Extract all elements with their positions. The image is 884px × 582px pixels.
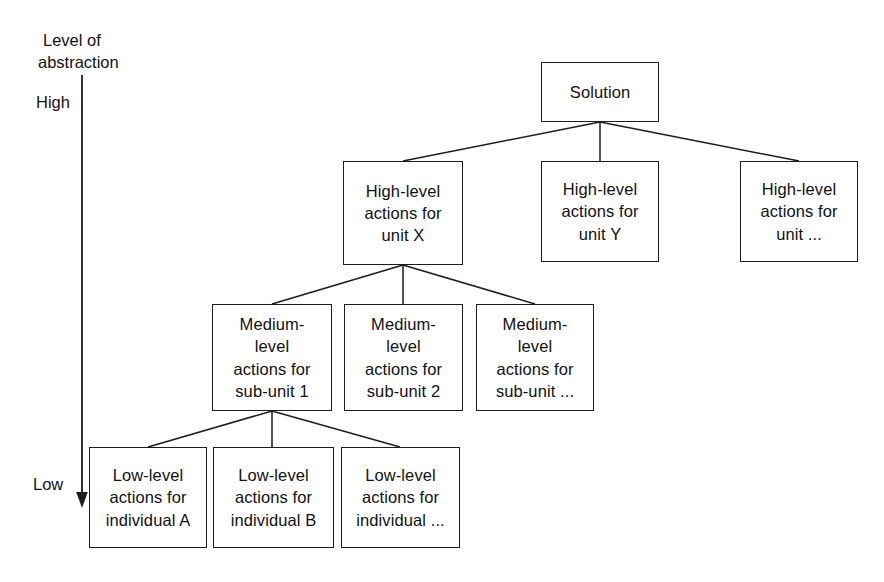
edge-high-x-to-med-e: [403, 265, 535, 304]
node-high-e-line-3: unit ...: [776, 223, 822, 245]
diagram-canvas: Level of abstraction High Low Solution H…: [0, 0, 884, 582]
node-med-e-line-4: sub-unit ...: [496, 380, 574, 402]
node-medium-level-sub-unit-2[interactable]: Medium- level actions for sub-unit 2: [344, 304, 463, 411]
node-high-e-line-2: actions for: [760, 200, 837, 222]
node-low-b-line-2: actions for: [235, 486, 312, 508]
node-solution-line-1: Solution: [570, 81, 630, 103]
node-solution[interactable]: Solution: [541, 62, 659, 122]
node-med-2-line-2: level: [386, 335, 420, 357]
node-medium-level-sub-unit-ellipsis[interactable]: Medium- level actions for sub-unit ...: [476, 304, 594, 411]
node-high-e-line-1: High-level: [762, 178, 836, 200]
edge-solution-to-high-x: [403, 122, 600, 161]
node-high-x-line-3: unit X: [382, 224, 425, 246]
axis-title: Level of abstraction: [38, 30, 119, 74]
node-med-1-line-1: Medium-: [240, 313, 305, 335]
node-low-level-individual-b[interactable]: Low-level actions for individual B: [213, 447, 334, 548]
node-med-1-line-3: actions for: [233, 358, 310, 380]
node-high-level-unit-ellipsis[interactable]: High-level actions for unit ...: [740, 161, 858, 262]
node-low-a-line-1: Low-level: [113, 464, 184, 486]
node-low-b-line-1: Low-level: [238, 464, 309, 486]
node-medium-level-sub-unit-1[interactable]: Medium- level actions for sub-unit 1: [212, 304, 332, 411]
edge-med-1-to-low-a: [148, 411, 272, 447]
node-med-1-line-2: level: [255, 335, 289, 357]
node-low-level-individual-a[interactable]: Low-level actions for individual A: [89, 447, 207, 548]
node-med-1-line-4: sub-unit 1: [235, 380, 308, 402]
node-med-e-line-2: level: [518, 335, 552, 357]
node-med-2-line-4: sub-unit 2: [367, 380, 440, 402]
abstraction-axis-arrow: [76, 75, 88, 508]
node-high-level-unit-x[interactable]: High-level actions for unit X: [343, 161, 463, 265]
axis-title-line-1: Level of: [38, 30, 119, 52]
node-low-a-line-2: actions for: [109, 486, 186, 508]
node-med-e-line-1: Medium-: [503, 313, 568, 335]
node-low-level-individual-ellipsis[interactable]: Low-level actions for individual ...: [341, 447, 460, 548]
node-high-level-unit-y[interactable]: High-level actions for unit Y: [541, 161, 659, 262]
node-high-y-line-1: High-level: [563, 178, 637, 200]
node-med-e-line-3: actions for: [496, 358, 573, 380]
axis-title-line-2: abstraction: [38, 52, 119, 74]
node-low-b-line-3: individual B: [231, 509, 317, 531]
node-low-a-line-3: individual A: [106, 509, 191, 531]
axis-label-high: High: [36, 92, 70, 114]
node-low-e-line-2: actions for: [362, 486, 439, 508]
edge-solution-to-high-e: [600, 122, 799, 161]
node-high-x-line-1: High-level: [366, 180, 440, 202]
axis-label-low: Low: [33, 474, 63, 496]
node-low-e-line-3: individual ...: [356, 509, 445, 531]
node-high-y-line-3: unit Y: [579, 223, 622, 245]
edge-high-x-to-med-1: [272, 265, 403, 304]
node-high-y-line-2: actions for: [561, 200, 638, 222]
node-med-2-line-1: Medium-: [371, 313, 436, 335]
node-med-2-line-3: actions for: [365, 358, 442, 380]
node-high-x-line-2: actions for: [364, 202, 441, 224]
node-low-e-line-1: Low-level: [365, 464, 436, 486]
edge-med-1-to-low-e: [272, 411, 400, 447]
